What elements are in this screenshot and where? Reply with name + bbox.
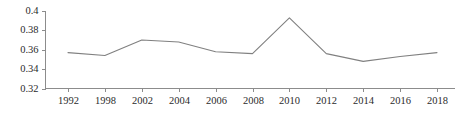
y-tick-labels: 0.320.340.360.380.4 xyxy=(20,5,39,94)
x-tick-label: 1992 xyxy=(58,95,79,106)
x-tick-label: 2014 xyxy=(353,95,375,106)
x-tick-label: 2018 xyxy=(427,95,448,106)
x-tick-label: 2006 xyxy=(206,95,227,106)
x-tick-label: 2002 xyxy=(132,95,153,106)
x-tick-label: 2016 xyxy=(390,95,411,106)
y-tick-label: 0.32 xyxy=(20,83,38,94)
x-tick-labels: 1992199820022004200620082010201220142016… xyxy=(58,95,448,106)
x-tick-label: 2004 xyxy=(169,95,191,106)
y-tick-label: 0.38 xyxy=(20,24,38,35)
x-tick-label: 1998 xyxy=(95,95,116,106)
line-chart: 0.320.340.360.380.4 19921998200220042006… xyxy=(0,0,469,121)
x-tick-label: 2008 xyxy=(243,95,264,106)
y-tick-marks xyxy=(42,12,46,90)
y-axis: 0.320.340.360.380.4 xyxy=(20,5,45,94)
data-series-line xyxy=(68,18,437,62)
y-tick-label: 0.34 xyxy=(20,63,39,74)
y-tick-label: 0.36 xyxy=(20,44,38,55)
chart-canvas: 0.320.340.360.380.4 19921998200220042006… xyxy=(0,0,469,121)
x-tick-label: 2010 xyxy=(279,95,300,106)
x-axis: 1992199820022004200620082010201220142016… xyxy=(46,89,456,106)
plot-area xyxy=(68,18,437,62)
x-tick-label: 2012 xyxy=(316,95,337,106)
y-tick-label: 0.4 xyxy=(25,5,39,16)
x-tick-marks xyxy=(69,89,438,93)
